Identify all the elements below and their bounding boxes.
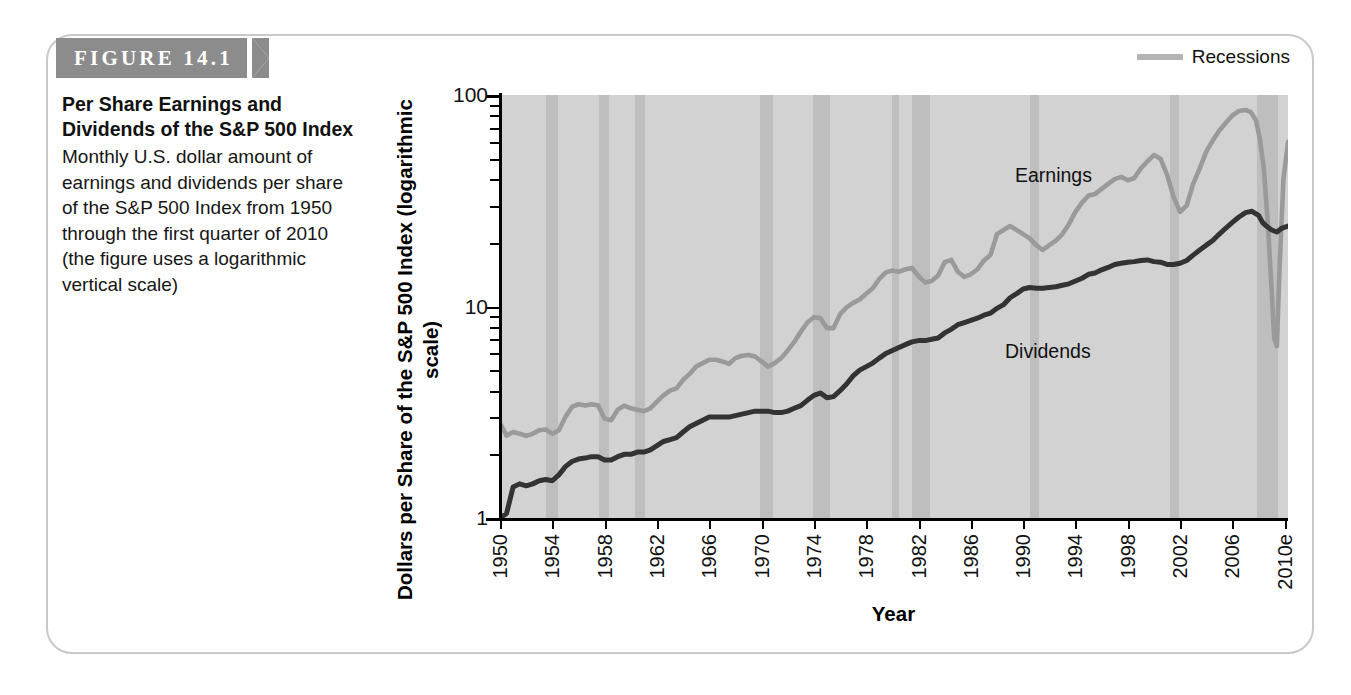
y-axis-minor-tick xyxy=(490,206,500,208)
x-axis-tick-label: 1970 xyxy=(751,534,774,579)
banner-arrow-icon xyxy=(252,38,269,78)
y-axis-minor-tick xyxy=(490,316,500,318)
chart-legend: Recessions xyxy=(1137,46,1290,68)
x-axis-title: Year xyxy=(499,602,1288,626)
y-axis-tick-label: 1 xyxy=(436,506,488,530)
y-axis-minor-tick xyxy=(490,243,500,245)
y-axis-minor-tick xyxy=(490,391,500,393)
x-axis-tick xyxy=(605,518,607,529)
y-axis-minor-tick xyxy=(490,353,500,355)
x-axis-tick xyxy=(1180,518,1182,529)
y-axis-minor-tick xyxy=(490,105,500,107)
x-axis-tick xyxy=(1075,518,1077,529)
figure-number-label: FIGURE 14.1 xyxy=(74,46,233,71)
y-axis-minor-tick xyxy=(490,179,500,181)
y-axis-minor-tick xyxy=(490,454,500,456)
figure-title: Per Share Earnings and Dividends of the … xyxy=(62,92,362,142)
x-axis-tick-label: 1994 xyxy=(1064,534,1087,579)
x-axis-tick-label: 1986 xyxy=(960,534,983,579)
x-axis-tick-label: 1954 xyxy=(541,534,564,579)
figure-text-column: Per Share Earnings and Dividends of the … xyxy=(62,92,362,297)
figure-banner: FIGURE 14.1 xyxy=(56,38,247,78)
x-axis-tick xyxy=(919,518,921,529)
series-label-dividends: Dividends xyxy=(1005,340,1091,363)
legend-label-recessions: Recessions xyxy=(1192,46,1290,68)
x-axis-tick xyxy=(762,518,764,529)
x-axis-tick xyxy=(971,518,973,529)
x-axis-tick-label: 1978 xyxy=(855,534,878,579)
y-axis-major-tick xyxy=(486,307,500,310)
x-axis-tick-label: 1962 xyxy=(646,534,669,579)
x-axis-tick-label: 1950 xyxy=(489,534,512,579)
series-lines-group xyxy=(500,95,1288,518)
x-axis-tick-label: 1990 xyxy=(1012,534,1035,579)
x-axis-tick xyxy=(657,518,659,529)
x-axis-tick-label: 1974 xyxy=(803,534,826,579)
x-axis-tick xyxy=(866,518,868,529)
x-axis-tick xyxy=(1285,518,1287,529)
x-axis-tick-label: 1966 xyxy=(698,534,721,579)
x-axis-tick-label: 1998 xyxy=(1117,534,1140,579)
x-axis-tick-label: 2006 xyxy=(1221,534,1244,579)
y-axis-major-tick xyxy=(486,518,500,521)
y-axis-minor-tick xyxy=(490,339,500,341)
y-axis-tick-label: 10 xyxy=(436,295,488,319)
x-axis-tick-label: 2010e xyxy=(1274,534,1297,590)
y-axis-minor-tick xyxy=(490,115,500,117)
x-axis-tick xyxy=(1232,518,1234,529)
chart-area: Recessions Dollars per Share of the S&P … xyxy=(398,36,1298,616)
x-axis-tick xyxy=(709,518,711,529)
x-axis-tick-label: 1958 xyxy=(594,534,617,579)
recessions-swatch-icon xyxy=(1137,54,1183,60)
y-axis-tick-label: 100 xyxy=(436,83,488,107)
y-axis-minor-tick xyxy=(490,370,500,372)
x-axis-tick xyxy=(552,518,554,529)
y-axis-minor-tick xyxy=(490,142,500,144)
x-axis-tick xyxy=(814,518,816,529)
x-axis-line xyxy=(499,518,1288,521)
series-line-dividends xyxy=(500,211,1288,518)
x-axis-tick xyxy=(1128,518,1130,529)
y-axis-minor-tick xyxy=(490,417,500,419)
series-line-earnings xyxy=(500,110,1288,436)
x-axis-tick xyxy=(1023,518,1025,529)
figure-page: FIGURE 14.1 Per Share Earnings and Divid… xyxy=(0,0,1351,695)
y-axis-minor-tick xyxy=(490,128,500,130)
x-axis-tick-label: 2002 xyxy=(1169,534,1192,579)
x-axis-tick xyxy=(500,518,502,529)
series-label-earnings: Earnings xyxy=(1015,164,1092,187)
figure-caption: Monthly U.S. dollar amount of earnings a… xyxy=(62,144,362,297)
y-axis-major-tick xyxy=(486,95,500,98)
y-axis-minor-tick xyxy=(490,327,500,329)
x-axis-tick-label: 1982 xyxy=(908,534,931,579)
y-axis-minor-tick xyxy=(490,159,500,161)
